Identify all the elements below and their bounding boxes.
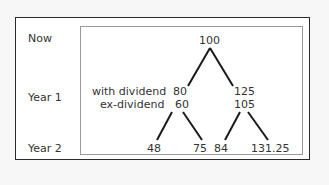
- branch-root-up: [210, 48, 233, 86]
- node-year1-down-ex-dividend: 60: [175, 99, 189, 111]
- branch-105-up: [248, 112, 268, 140]
- node-year1-up-ex-dividend: 105: [234, 99, 255, 111]
- annotation-with-dividend: with dividend: [92, 86, 166, 98]
- node-year1-up-with-dividend: 125: [234, 86, 255, 98]
- branch-60-down: [157, 112, 172, 140]
- node-year2-up-down: 84: [214, 143, 228, 155]
- annotation-ex-dividend: ex-dividend: [100, 99, 164, 111]
- node-year1-down-with-dividend: 80: [173, 86, 187, 98]
- branch-60-up: [183, 112, 202, 140]
- node-root: 100: [199, 35, 220, 47]
- node-year2-up-up: 131.25: [251, 143, 290, 155]
- node-year2-down-down: 48: [147, 143, 161, 155]
- node-year2-down-up: 75: [193, 143, 207, 155]
- branch-root-down: [188, 48, 210, 86]
- branch-105-down: [225, 112, 240, 140]
